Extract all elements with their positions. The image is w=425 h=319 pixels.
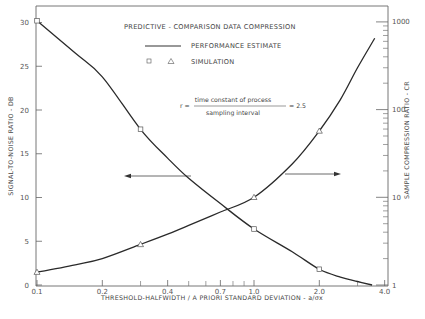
axis-arrows [124, 172, 341, 178]
left-y-tick-label: 5 [25, 238, 29, 246]
left-y-tick-label: 15 [20, 150, 29, 158]
left-y-tick-label: 0 [25, 282, 29, 290]
x-axis-title: THRESHOLD-HALFWIDTH / A PRIORI STANDARD … [100, 294, 323, 301]
left-y-tick-label: 25 [20, 63, 29, 71]
square-marker-icon [252, 227, 257, 232]
right-arrowhead-icon [334, 172, 341, 176]
left-y-axis-title: SIGNAL-TO-NOISE RATIO - DB [7, 96, 14, 195]
right-y-tick-label: 1000 [392, 18, 410, 26]
chart-title: PREDICTIVE - COMPARISON DATA COMPRESSION [124, 23, 296, 31]
legend-label-performance: PERFORMANCE ESTIMATE [191, 42, 282, 50]
cr-performance-curve [37, 38, 375, 272]
left-y-axis-ticks: 051015202530 [20, 19, 42, 290]
square-marker-icon [138, 127, 143, 132]
square-marker-icon [35, 18, 40, 23]
right-y-tick-label: 1 [392, 282, 396, 290]
snr-simulation-markers [35, 18, 322, 271]
left-y-tick-label: 30 [20, 19, 29, 27]
x-tick-label: 0.1 [31, 288, 42, 296]
annotation-suffix: = 2.5 [289, 102, 306, 109]
legend-square-marker-icon [147, 59, 151, 63]
annotation-prefix: r = [180, 102, 190, 109]
right-y-axis-title: SAMPLE COMPRESSION RATIO - CR [403, 81, 410, 199]
annotation-denominator: sampling interval [206, 109, 260, 117]
legend-label-simulation: SIMULATION [191, 58, 235, 66]
x-tick-label: 4.0 [379, 288, 390, 296]
parameter-annotation: r = time constant of process sampling in… [180, 96, 306, 117]
square-marker-icon [317, 267, 322, 272]
annotation-numerator: time constant of process [195, 96, 272, 104]
chart: 0.10.20.40.71.02.04.0 051015202530 11010… [0, 0, 425, 319]
legend: PERFORMANCE ESTIMATE SIMULATION [145, 42, 282, 66]
cr-simulation-markers [34, 128, 322, 274]
left-y-tick-label: 10 [20, 194, 29, 202]
left-y-tick-label: 20 [20, 107, 29, 115]
legend-triangle-marker-icon [168, 59, 174, 64]
left-arrowhead-icon [124, 174, 131, 178]
right-y-tick-label: 10 [392, 194, 401, 202]
